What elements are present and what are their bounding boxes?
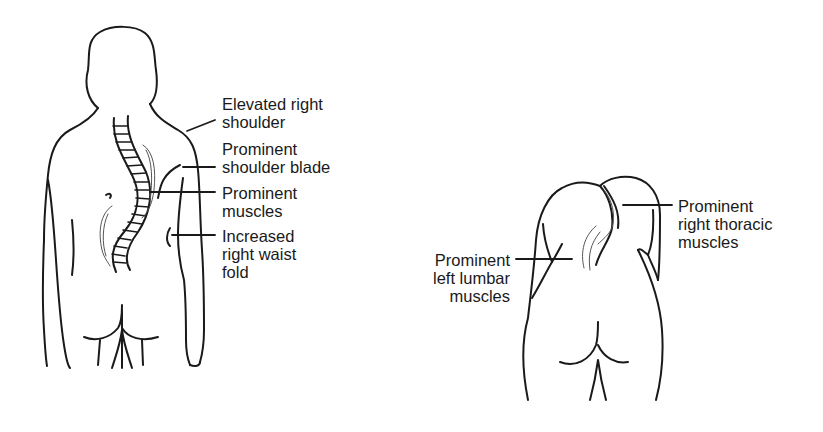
label-prominent-left-lumbar-muscles: Prominent left lumbar muscles: [433, 251, 510, 305]
label-prominent-shoulder-blade: Prominent shoulder blade: [222, 140, 330, 176]
label-increased-right-waist-fold: Increased right waist fold: [222, 227, 296, 281]
forward-bend-figure: [524, 177, 663, 400]
label-elevated-right-shoulder: Elevated right shoulder: [222, 95, 323, 131]
standing-figure: [43, 27, 204, 368]
label-prominent-muscles: Prominent muscles: [222, 184, 297, 220]
label-prominent-right-thoracic-muscles: Prominent right thoracic muscles: [678, 197, 772, 251]
